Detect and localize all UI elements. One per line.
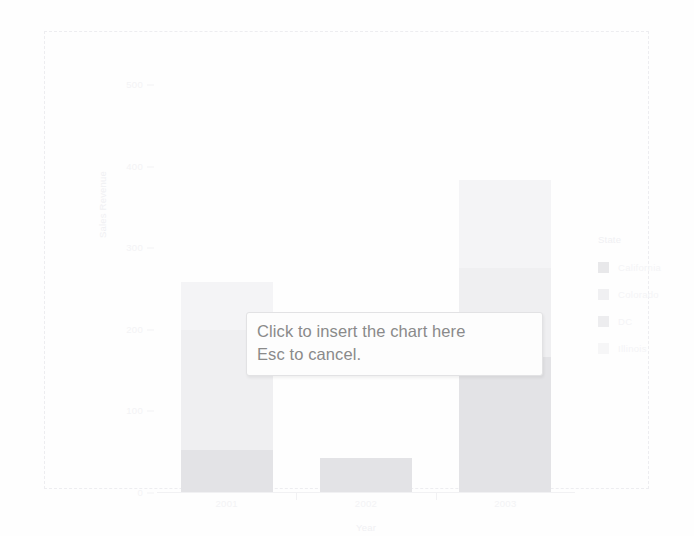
chart-insert-canvas: Sales Revenue 0100200300400500 200120022… — [0, 0, 694, 536]
x-axis-tick-label: 2003 — [494, 498, 516, 509]
y-axis-tick-mark — [147, 166, 154, 167]
legend-items: CaliforniaColoradoDCIllinois — [598, 254, 694, 362]
x-axis-tick-mark — [436, 492, 437, 500]
insert-chart-hint-tooltip: Click to insert the chart here Esc to ca… — [246, 312, 543, 376]
bar-group — [320, 458, 412, 492]
x-axis-tick-mark — [296, 492, 297, 500]
bar-segment — [320, 458, 412, 492]
plot-area: 0100200300400500 200120022003 Year — [157, 84, 575, 492]
y-axis-tick-label: 300 — [126, 242, 157, 253]
x-axis-tick-label: 2001 — [215, 498, 237, 509]
legend-item[interactable]: DC — [598, 308, 694, 335]
legend-item-label: California — [618, 262, 661, 273]
y-axis-tick-mark — [147, 492, 154, 493]
y-axis-title: Sales Revenue — [97, 171, 108, 238]
insert-hint-line-2: Esc to cancel. — [257, 343, 532, 366]
legend-title: State — [598, 234, 694, 245]
legend-item[interactable]: Colorado — [598, 281, 694, 308]
legend-swatch-icon — [598, 343, 609, 354]
y-axis-tick-label: 0 — [137, 487, 157, 498]
y-axis-tick-label: 500 — [126, 79, 157, 90]
x-axis-tick-label: 2002 — [355, 498, 377, 509]
legend-item-label: Illinois — [618, 343, 647, 354]
x-axis-line — [157, 492, 575, 493]
legend-item-label: Colorado — [618, 289, 659, 300]
legend-swatch-icon — [598, 262, 609, 273]
legend-swatch-icon — [598, 289, 609, 300]
legend-item-label: DC — [618, 316, 632, 327]
y-axis-tick-mark — [147, 248, 154, 249]
legend-item[interactable]: California — [598, 254, 694, 281]
bar-segment — [459, 357, 551, 492]
x-axis-title: Year — [157, 522, 575, 533]
y-axis-tick-label: 200 — [126, 323, 157, 334]
y-axis-tick-label: 100 — [126, 405, 157, 416]
bar-segment — [181, 450, 273, 492]
y-axis-tick-label: 400 — [126, 160, 157, 171]
y-axis-tick-mark — [147, 84, 154, 85]
insert-hint-line-1: Click to insert the chart here — [257, 320, 532, 343]
y-axis-tick-mark — [147, 329, 154, 330]
legend-item[interactable]: Illinois — [598, 335, 694, 362]
bar-segment — [459, 180, 551, 267]
chart-insert-dashed-region[interactable]: Sales Revenue 0100200300400500 200120022… — [44, 31, 649, 489]
legend: State CaliforniaColoradoDCIllinois — [598, 234, 694, 362]
legend-swatch-icon — [598, 316, 609, 327]
y-axis-tick-mark — [147, 411, 154, 412]
